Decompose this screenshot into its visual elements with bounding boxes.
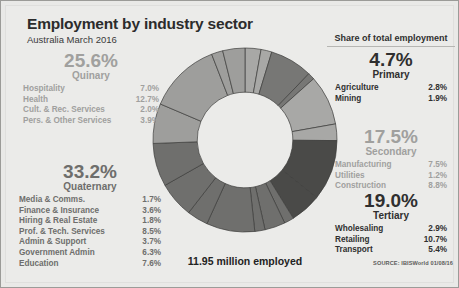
sector-label: Agriculture [335,83,405,94]
sector-label: Hiring & Real Estate [19,216,127,227]
sector-label: Cult. & Rec. Services [23,105,123,116]
group-primary: 4.7% Primary Agriculture2.8%Mining1.9% [335,50,447,104]
sector-label: Mining [335,94,405,105]
sector-label: Education [19,259,127,270]
group-primary-percent: 4.7% [335,50,447,69]
sector-label: Hospitality [23,84,123,95]
sector-row: Agriculture2.8% [335,83,447,94]
sector-label: Finance & Insurance [19,206,127,217]
group-tertiary-rows: Wholesaling2.9%Retailing10.7%Transport5.… [335,224,447,256]
sector-row: Hospitality7.0% [23,84,159,95]
group-primary-table: Agriculture2.8%Mining1.9% [335,83,447,104]
group-quinary-rows: Hospitality7.0%Health12.7%Cult. & Rec. S… [23,84,159,126]
group-quaternary: 33.2% Quaternary Media & Comms.1.7%Finan… [19,162,161,269]
sector-value: 1.8% [127,216,161,227]
sector-value: 2.0% [123,105,159,116]
group-quaternary-rows: Media & Comms.1.7%Finance & Insurance3.6… [19,195,161,269]
sector-value: 2.8% [405,83,447,94]
sector-row: Pers. & Other Services3.9% [23,116,159,127]
group-tertiary-percent: 19.0% [335,191,447,210]
share-of-total-employment-header: Share of total employment [327,33,455,47]
group-secondary-percent: 17.5% [335,127,447,146]
sector-row: Utilities1.2% [335,171,447,182]
sector-value: 2.9% [403,224,447,235]
sector-value: 6.3% [127,248,161,259]
group-secondary-rows: Manufacturing7.5%Utilities1.2%Constructi… [335,160,447,192]
sector-row: Cult. & Rec. Services2.0% [23,105,159,116]
donut-chart-svg [152,33,338,247]
donut-chart [152,33,338,247]
group-tertiary-table: Wholesaling2.9%Retailing10.7%Transport5.… [335,224,447,256]
group-quinary-percent: 25.6% [23,51,159,70]
sector-value: 1.9% [405,94,447,105]
sector-value: 5.4% [403,245,447,256]
sector-row: Mining1.9% [335,94,447,105]
sector-label: Wholesaling [335,224,403,235]
sector-row: Admin & Support3.7% [19,237,161,248]
sector-row: Retailing10.7% [335,235,447,246]
total-employed-label: 11.95 million employed [152,255,338,267]
group-secondary-table: Manufacturing7.5%Utilities1.2%Constructi… [335,160,447,192]
group-quaternary-table: Media & Comms.1.7%Finance & Insurance3.6… [19,195,161,269]
sector-row: Transport5.4% [335,245,447,256]
sector-row: Health12.7% [23,95,159,106]
group-secondary: 17.5% Secondary Manufacturing7.5%Utiliti… [335,127,447,192]
sector-label: Manufacturing [335,160,411,171]
sector-label: Pers. & Other Services [23,116,123,127]
infographic-page: Employment by industry sector Australia … [0,0,459,288]
sector-value: 10.7% [403,235,447,246]
sector-row: Hiring & Real Estate1.8% [19,216,161,227]
group-quinary-name: Quinary [23,70,159,82]
group-quaternary-percent: 33.2% [19,162,161,181]
sector-value: 7.5% [411,160,447,171]
sector-row: Media & Comms.1.7% [19,195,161,206]
sector-label: Prof. & Tech. Services [19,227,127,238]
sector-label: Health [23,95,123,106]
page-subtitle: Australia March 2016 [27,34,117,45]
sector-label: Utilities [335,171,411,182]
sector-value: 7.6% [127,259,161,270]
card-surface: Employment by industry sector Australia … [5,5,454,283]
sector-label: Media & Comms. [19,195,127,206]
group-tertiary: 19.0% Tertiary Wholesaling2.9%Retailing1… [335,191,447,256]
sector-value: 3.9% [123,116,159,127]
sector-row: Education7.6% [19,259,161,270]
sector-row: Government Admin6.3% [19,248,161,259]
sector-value: 3.7% [127,237,161,248]
sector-value: 3.6% [127,206,161,217]
sector-value: 12.7% [123,95,159,106]
sector-label: Transport [335,245,403,256]
sector-value: 1.7% [127,195,161,206]
sector-row: Manufacturing7.5% [335,160,447,171]
group-quinary: 25.6% Quinary Hospitality7.0%Health12.7%… [23,51,159,126]
page-title: Employment by industry sector [27,15,253,33]
group-quaternary-name: Quaternary [19,181,161,193]
source-note: SOURCE: IBISWorld 01/08/16 [335,260,453,266]
sector-row: Finance & Insurance3.6% [19,206,161,217]
group-tertiary-name: Tertiary [335,210,447,222]
sector-label: Government Admin [19,248,127,259]
group-primary-name: Primary [335,69,447,81]
group-primary-rows: Agriculture2.8%Mining1.9% [335,83,447,104]
sector-row: Prof. & Tech. Services8.5% [19,227,161,238]
sector-value: 8.5% [127,227,161,238]
sector-row: Wholesaling2.9% [335,224,447,235]
sector-label: Retailing [335,235,403,246]
sector-value: 1.2% [411,171,447,182]
sector-value: 7.0% [123,84,159,95]
group-secondary-name: Secondary [335,146,447,158]
group-quinary-table: Hospitality7.0%Health12.7%Cult. & Rec. S… [23,84,159,126]
sector-label: Admin & Support [19,237,127,248]
